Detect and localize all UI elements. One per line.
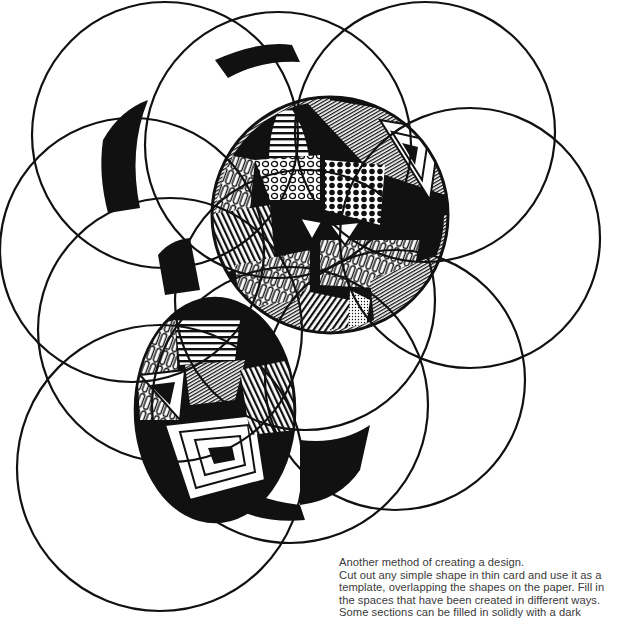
caption: Another method of creating a design. Cut…: [339, 556, 632, 619]
black-crescent-lower: [300, 425, 370, 505]
caption-line: template, overlapping the shapes on the …: [339, 581, 632, 594]
caption-line: the spaces that have been created in dif…: [339, 594, 632, 607]
caption-line: Some sections can be filled in solidly w…: [339, 606, 632, 619]
black-crescent-top: [215, 44, 300, 78]
black-crescent-left: [101, 100, 148, 213]
caption-line: Cut out any simple shape in thin card an…: [339, 569, 632, 582]
caption-line: Another method of creating a design.: [339, 556, 632, 569]
